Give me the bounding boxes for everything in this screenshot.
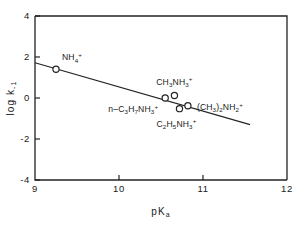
svg-text:pKa: pKa <box>151 206 170 218</box>
data-point-label: (CH3)2NH2+ <box>197 101 243 113</box>
data-point-label: C2H5NH3+ <box>156 117 196 129</box>
scatter-plot: 9101112 420-2-4 NH4+n–C3H7NH3+CH3NH3+C2H… <box>0 0 307 228</box>
x-tick-label: 11 <box>197 183 208 194</box>
data-point-label: n–C3H7NH3+ <box>108 103 158 115</box>
svg-text:log k-1: log k-1 <box>5 80 17 115</box>
y-tick-label: -4 <box>20 174 30 185</box>
y-axis-title: log k-1 <box>5 80 17 115</box>
x-tick-label: 9 <box>32 183 38 194</box>
x-tick-label: 12 <box>281 183 293 194</box>
data-point-marker <box>53 66 59 72</box>
x-axis-ticks <box>119 175 203 180</box>
data-point-marker <box>185 103 191 109</box>
x-axis-title: pKa <box>151 206 170 218</box>
y-axis-tick-labels: 420-2-4 <box>20 10 30 185</box>
data-point-marker <box>176 106 182 112</box>
x-axis-tick-labels: 9101112 <box>32 183 293 194</box>
y-tick-label: 0 <box>24 92 30 103</box>
x-tick-label: 10 <box>113 183 125 194</box>
data-point-label: NH4+ <box>62 51 82 63</box>
y-axis-ticks <box>35 16 40 180</box>
data-point-marker <box>171 92 177 98</box>
y-tick-label: -2 <box>20 133 30 144</box>
data-point-marker <box>162 95 168 101</box>
trend-line <box>35 63 250 125</box>
plot-frame <box>35 16 287 180</box>
y-tick-label: 2 <box>24 51 30 62</box>
chart-container: 9101112 420-2-4 NH4+n–C3H7NH3+CH3NH3+C2H… <box>0 0 307 228</box>
y-tick-label: 4 <box>24 10 30 21</box>
data-point-label: CH3NH3+ <box>156 75 193 87</box>
data-point-labels: NH4+n–C3H7NH3+CH3NH3+C2H5NH3+(CH3)2NH2+ <box>62 51 243 130</box>
